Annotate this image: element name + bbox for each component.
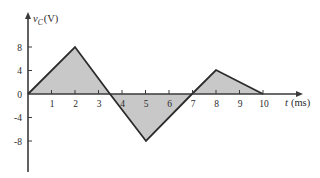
y-axis-label: vC(V)	[33, 13, 59, 27]
y-axis-arrow-icon	[25, 12, 31, 19]
y-tick-label: 4	[17, 66, 22, 76]
y-tick-label: 0	[17, 90, 22, 100]
x-tick-label: 9	[238, 99, 243, 109]
chart: 1 2 3 4 5 6 7 8 9 10 8 4 0 -4 -8 vC(V) t…	[0, 0, 320, 178]
x-tick-label: 7	[191, 99, 196, 109]
x-tick-label: 8	[214, 99, 219, 109]
x-tick-label: 6	[167, 99, 172, 109]
y-tick-label: -8	[14, 137, 22, 147]
y-tick-label: -4	[14, 113, 22, 123]
x-axis-label: t(ms)	[285, 97, 311, 109]
x-tick-label: 5	[144, 99, 149, 109]
x-tick-label: 3	[97, 99, 102, 109]
y-tick-label: 8	[17, 43, 22, 53]
x-tick-label: 4	[120, 99, 125, 109]
x-tick-label: 10	[259, 99, 269, 109]
x-tick-label: 2	[73, 99, 78, 109]
x-tick-label: 1	[50, 99, 55, 109]
